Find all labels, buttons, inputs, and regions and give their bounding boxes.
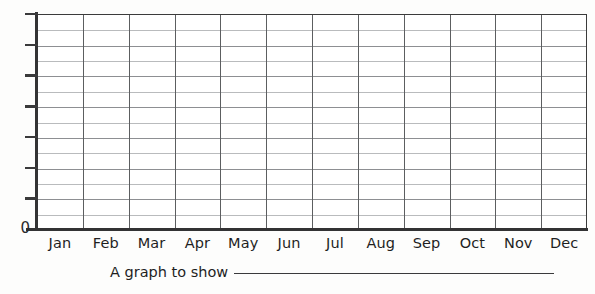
y-axis-tick [25,74,38,76]
x-axis-label-jan: Jan [37,233,83,253]
x-axis-label-nov: Nov [495,233,541,253]
y-axis-tick [25,44,38,46]
x-axis-label-aug: Aug [358,233,404,253]
x-axis-label-feb: Feb [83,233,129,253]
y-axis-tick [25,197,38,199]
y-axis-tick [25,105,38,107]
x-axis-label-oct: Oct [450,233,496,253]
caption-label: A graph to show [110,264,228,280]
x-axis-label-may: May [220,233,266,253]
x-axis-label-jun: Jun [266,233,312,253]
x-axis-label-jul: Jul [312,233,358,253]
y-axis-tick [25,167,38,169]
y-axis-tick [25,13,38,15]
x-axis-label-dec: Dec [541,233,587,253]
y-axis-origin-label: 0 [10,219,30,237]
y-axis-tick [25,136,38,138]
x-axis-label-sep: Sep [404,233,450,253]
x-axis-label-apr: Apr [175,233,221,253]
worksheet-page: 0 JanFebMarAprMayJunJulAugSepOctNovDec A… [0,0,595,294]
x-axis-tick-labels: JanFebMarAprMayJunJulAugSepOctNovDec [37,233,587,255]
chart-caption: A graph to show [110,264,554,286]
caption-blank-line[interactable] [234,273,554,274]
x-axis-label-mar: Mar [129,233,175,253]
